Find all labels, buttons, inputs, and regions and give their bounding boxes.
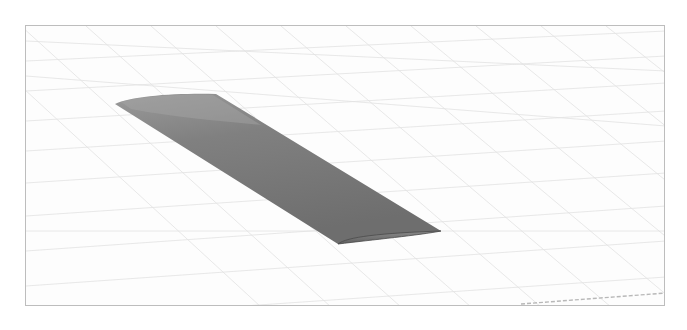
- ground-plane-edge: [521, 293, 665, 304]
- ground-grid: [26, 26, 665, 306]
- render-viewport: [25, 25, 665, 306]
- wing-surface: [115, 94, 441, 244]
- wing-object: [115, 94, 441, 244]
- wing-render-scene: [26, 26, 665, 306]
